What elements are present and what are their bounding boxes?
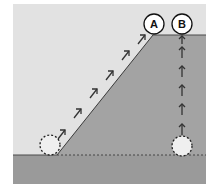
- lower-ground: [13, 155, 206, 184]
- incline-vs-vertical-diagram: A B: [0, 0, 218, 188]
- label-b: B: [178, 18, 186, 30]
- start-circle-a: [40, 135, 60, 155]
- end-circle-b: B: [172, 14, 192, 34]
- start-circle-b: [172, 136, 192, 156]
- end-circle-a: A: [144, 14, 164, 34]
- label-a: A: [150, 18, 158, 30]
